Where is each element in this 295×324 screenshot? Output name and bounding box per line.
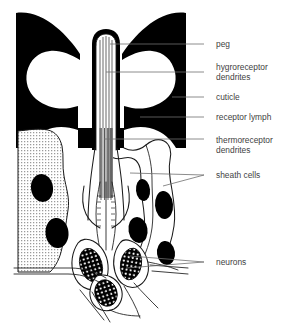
neuron-body-3 (90, 275, 122, 311)
label-thermoreceptor-dendrites-line2: dendrites (216, 145, 250, 155)
label-sheath-cells: sheath cells (216, 170, 260, 180)
sheath-cell-left (18, 129, 70, 272)
label-cuticle: cuticle (216, 92, 240, 102)
label-hygroreceptor-dendrites-line1: hygroreceptor (216, 62, 268, 72)
neurons (72, 239, 149, 311)
sheath-nucleus-right-b (154, 190, 174, 219)
label-receptor-lymph: receptor lymph (216, 112, 272, 122)
sheath-nucleus-right-a (135, 178, 151, 201)
neuron-body-2 (114, 240, 149, 287)
label-neurons: neurons (216, 257, 246, 267)
label-group: peg hygroreceptor dendrites cuticle rece… (216, 39, 273, 267)
sheath-nucleus-right-d (155, 240, 176, 266)
label-thermoreceptor-dendrites-line1: thermoreceptor (216, 135, 273, 145)
sensillum-diagram: peg hygroreceptor dendrites cuticle rece… (0, 0, 295, 324)
label-hygroreceptor-dendrites-line2: dendrites (216, 72, 250, 82)
label-peg: peg (216, 39, 230, 49)
figure-root: peg hygroreceptor dendrites cuticle rece… (0, 0, 295, 324)
